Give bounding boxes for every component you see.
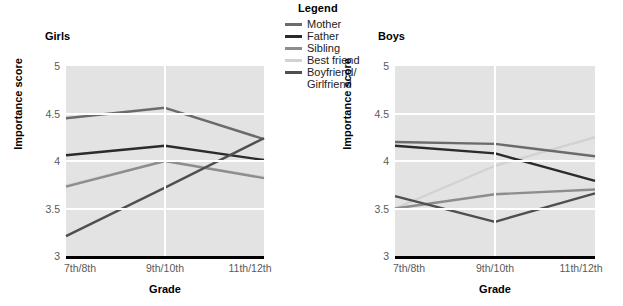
y-axis-tick-label: 3.5 (20, 203, 60, 215)
gridline-vertical (164, 66, 166, 256)
x-axis-label-girls: Grade (66, 283, 264, 295)
gridline-vertical (494, 66, 496, 256)
y-axis-tick-label: 3 (349, 250, 389, 262)
y-axis-label-girls: Importance score (12, 34, 24, 174)
plot-area-boys (395, 66, 595, 256)
panel-girls: Girls Importance score Grade 54.543.537t… (0, 0, 290, 306)
y-axis-tick-label: 5 (349, 60, 389, 72)
x-axis-tick-label: 9th/10th (476, 262, 514, 274)
y-axis-tick-label: 3.5 (349, 203, 389, 215)
plot-area-girls (66, 66, 264, 256)
x-axis-tick-label: 7th/8th (393, 262, 425, 274)
y-axis-tick-label: 4 (349, 155, 389, 167)
panel-boys: Boys Importance score Grade 54.543.537th… (333, 0, 623, 306)
x-axis-label-boys: Grade (395, 283, 595, 295)
figure-root: Legend MotherFatherSiblingBest friendBoy… (0, 0, 623, 306)
y-axis-label-boys: Importance score (341, 34, 353, 174)
panel-title-boys: Boys (378, 30, 405, 42)
x-axis-tick-label: 9th/10th (146, 262, 184, 274)
x-axis-line-girls (66, 256, 264, 259)
y-axis-tick-label: 4.5 (349, 108, 389, 120)
y-axis-tick-label: 4.5 (20, 108, 60, 120)
y-axis-tick-label: 3 (20, 250, 60, 262)
x-axis-tick-label: 7th/8th (64, 262, 96, 274)
y-axis-tick-label: 4 (20, 155, 60, 167)
x-axis-tick-label: 11th/12th (559, 262, 602, 274)
x-axis-tick-label: 11th/12th (228, 262, 271, 274)
y-axis-tick-label: 5 (20, 60, 60, 72)
panel-title-girls: Girls (45, 30, 70, 42)
x-axis-line-boys (395, 256, 595, 259)
